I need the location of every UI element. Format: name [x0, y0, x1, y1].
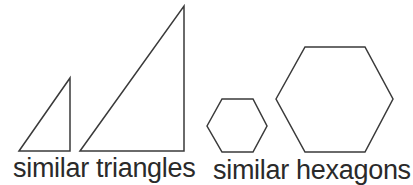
similar-shapes-diagram: similar triangles similar hexagons — [0, 0, 413, 185]
triangles-label: similar triangles — [13, 155, 195, 182]
hexagons-label: similar hexagons — [213, 157, 411, 184]
small-hexagon — [207, 99, 267, 152]
small-triangle — [19, 78, 70, 151]
large-hexagon — [276, 47, 393, 152]
large-triangle — [80, 6, 184, 151]
